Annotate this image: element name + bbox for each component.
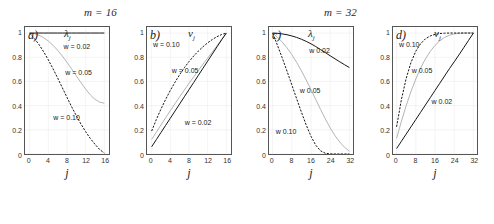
- y-tick-label: 0.2: [380, 127, 390, 134]
- y-tick-label: 0.6: [380, 78, 390, 85]
- x-tick-label: 4: [168, 157, 172, 164]
- x-tick-label: 4: [46, 157, 50, 164]
- y-tick-label: 0.4: [12, 102, 22, 109]
- curve-annotation: w 0.10: [399, 41, 420, 48]
- x-tick-label: 12: [82, 157, 90, 164]
- y-tick-label: 0: [386, 152, 390, 159]
- curve-annotation: w 0.10: [276, 128, 297, 135]
- x-tick-label: 16: [307, 157, 315, 164]
- curve-annotation: w = 0.05: [65, 69, 92, 76]
- curve-annotation: w 0.02: [309, 47, 330, 54]
- curve-annotation: w 0.02: [432, 98, 453, 105]
- group-title-m32: m = 32: [324, 6, 357, 18]
- curve-annotation: w = 0.02: [64, 43, 91, 50]
- y-tick-label: 0.4: [256, 102, 266, 109]
- panel-c: c) λj 10.80.60.40.20 08162432 j w 0.02w …: [246, 26, 355, 178]
- x-tick-label: 16: [101, 157, 109, 164]
- curve-annotation: w = 0.02: [185, 119, 212, 126]
- x-tick-label: 32: [346, 157, 354, 164]
- y-tick-label: 0.2: [256, 127, 266, 134]
- y-tick-label: 0.8: [12, 53, 22, 60]
- y-tick-label: 0.8: [134, 53, 144, 60]
- y-tick-label: 0.2: [134, 127, 144, 134]
- y-tick-label: 0.6: [12, 78, 22, 85]
- panel-a-xlabel: j: [24, 166, 110, 181]
- y-tick-label: 1: [262, 29, 266, 36]
- x-tick-label: 12: [204, 157, 212, 164]
- x-tick-label: 16: [431, 157, 439, 164]
- x-tick-label: 0: [149, 157, 153, 164]
- x-tick-label: 0: [394, 157, 398, 164]
- x-tick-label: 24: [327, 157, 335, 164]
- y-tick-label: 1: [140, 29, 144, 36]
- group-title-m16: m = 16: [84, 6, 117, 18]
- y-tick-label: 1: [386, 29, 390, 36]
- y-tick-label: 0.4: [134, 102, 144, 109]
- curve-annotation: w = 0.05: [172, 67, 199, 74]
- y-tick-label: 1: [18, 29, 22, 36]
- curve-annotation: w = 0.10: [153, 41, 180, 48]
- x-tick-label: 8: [187, 157, 191, 164]
- panel-b-xlabel: j: [146, 166, 232, 181]
- panel-a: a) λj 10.80.60.40.20 0481216 j w = 0.02w…: [2, 26, 111, 178]
- panel-c-xlabel: j: [268, 166, 354, 181]
- x-tick-label: 8: [289, 157, 293, 164]
- panel-b: b) vj 10.80.60.40.20 0481216 j w = 0.10w…: [124, 26, 233, 178]
- panel-d-xlabel: j: [392, 166, 478, 181]
- group-title-m32-text: m = 32: [324, 6, 357, 18]
- y-tick-label: 0.4: [380, 102, 390, 109]
- curve-annotation: w 0.05: [412, 67, 433, 74]
- curve-annotation: w 0.05: [300, 87, 321, 94]
- y-tick-label: 0.8: [256, 53, 266, 60]
- x-tick-label: 16: [223, 157, 231, 164]
- y-tick-label: 0: [18, 152, 22, 159]
- y-tick-label: 0.6: [134, 78, 144, 85]
- y-tick-label: 0: [140, 152, 144, 159]
- x-tick-label: 0: [27, 157, 31, 164]
- x-tick-label: 8: [413, 157, 417, 164]
- y-tick-label: 0.8: [380, 53, 390, 60]
- curve-annotation: w = 0.10: [53, 114, 80, 121]
- panel-d: d) vj 10.80.60.40.20 08162432 j w 0.10w …: [370, 26, 479, 178]
- figure-root: m = 16 m = 32 a) λj 10.80.60.40.20 04812…: [0, 0, 494, 224]
- x-tick-label: 24: [451, 157, 459, 164]
- x-tick-label: 8: [65, 157, 69, 164]
- y-tick-label: 0.6: [256, 78, 266, 85]
- x-tick-label: 32: [470, 157, 478, 164]
- y-tick-label: 0.2: [12, 127, 22, 134]
- y-tick-label: 0: [262, 152, 266, 159]
- group-title-m16-text: m = 16: [84, 6, 117, 18]
- x-tick-label: 0: [270, 157, 274, 164]
